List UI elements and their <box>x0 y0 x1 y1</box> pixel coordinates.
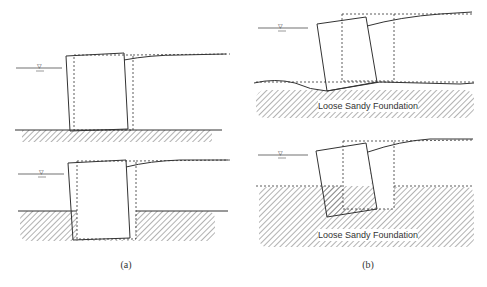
caisson-deformed <box>66 53 128 131</box>
foundation-hatch <box>22 130 212 142</box>
caisson-deformed <box>317 17 377 91</box>
backfill-deformed <box>124 54 226 60</box>
panel-a-bottom: ▽ <box>18 160 232 241</box>
panel-b-top: Loose Sandy Foundation ▽ <box>254 12 474 118</box>
caisson-original <box>74 55 133 130</box>
water-level-icon: ▽ <box>39 169 44 175</box>
caption-a: (a) <box>120 259 131 271</box>
caisson-original <box>342 14 394 81</box>
panel-b-bottom: Loose Sandy Foundation ▽ <box>256 139 474 247</box>
backfill-original <box>394 140 474 141</box>
panel-a-top: ▽ <box>15 53 230 142</box>
water-level-icon: ▽ <box>278 150 283 156</box>
foundation-label: Loose Sandy Foundation <box>318 101 418 111</box>
caisson-deformation-diagram: ▽ ▽ (a) Loose Sandy Foundation ▽ <box>0 0 487 287</box>
water-level-icon: ▽ <box>278 23 283 29</box>
caption-b: (b) <box>362 259 374 271</box>
caisson-deformed <box>68 160 130 240</box>
foundation-label: Loose Sandy Foundation <box>318 230 418 240</box>
water-level-icon: ▽ <box>37 63 42 69</box>
